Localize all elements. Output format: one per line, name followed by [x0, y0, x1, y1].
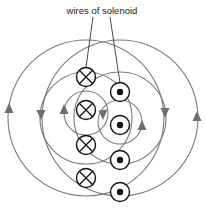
into-page-symbols-group: [77, 68, 96, 188]
wires-of-solenoid-label: wires of solenoid: [66, 5, 138, 16]
circle-cross-icon: [77, 136, 96, 155]
arrow-outer-left-up: [5, 103, 14, 113]
arrow-mid-right-down: [161, 108, 170, 118]
field-diagram-canvas: wires of solenoid: [0, 0, 205, 210]
leader-to-x-symbol: [86, 17, 93, 67]
out-of-page-symbols-group: [111, 83, 130, 202]
arrow-mid-left-down: [37, 110, 46, 120]
arrow-outer-right-up: [193, 111, 202, 121]
circle-dot-icon: [111, 83, 130, 102]
circle-dot-icon: [111, 116, 130, 135]
field-direction-arrows-group: [5, 103, 202, 130]
arrow-inner-right-up: [138, 120, 147, 130]
solenoid-field-figure: wires of solenoid: [0, 0, 205, 210]
circle-cross-icon: [77, 101, 96, 120]
circle-cross-icon: [77, 68, 96, 87]
arrow-inner-center-down: [99, 110, 108, 121]
circle-dot-icon: [111, 151, 130, 170]
circle-dot-icon: [111, 183, 130, 202]
arrow-inner-left-up: [60, 104, 69, 114]
circle-cross-icon: [77, 169, 96, 188]
